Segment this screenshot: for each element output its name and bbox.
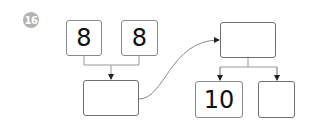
output-answer-box-2[interactable] — [258, 81, 295, 118]
input-value-1: 8 — [76, 24, 91, 52]
output-value-1: 10 — [204, 86, 235, 114]
target-answer-box[interactable] — [220, 22, 276, 58]
input-box-1: 8 — [66, 20, 102, 56]
input-value-2: 8 — [132, 24, 147, 52]
output-box-1: 10 — [195, 81, 243, 118]
combined-answer-box[interactable] — [83, 80, 139, 116]
input-box-2: 8 — [121, 20, 158, 56]
